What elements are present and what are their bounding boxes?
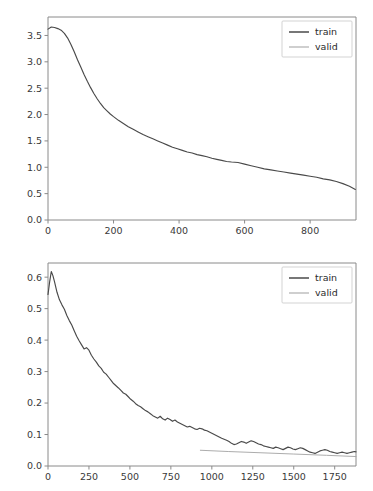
y-tick-label: 0.2 [27,397,42,408]
x-tick-label: 1500 [282,471,306,482]
x-tick-label: 400 [170,225,188,236]
y-tick-label: 0.0 [27,214,42,225]
y-tick-label: 0.5 [27,188,42,199]
y-tick-label: 0.5 [27,303,42,314]
y-tick-label: 2.5 [27,83,42,94]
y-tick-label: 3.0 [27,56,42,67]
x-tick-label: 0 [45,225,51,236]
y-tick-label: 0.0 [27,460,42,471]
loss-curves-figure: 0.00.51.01.52.02.53.03.50200400600800tra… [0,0,373,491]
x-tick-label: 0 [45,471,51,482]
x-tick-label: 1750 [323,471,347,482]
y-tick-label: 0.3 [27,366,42,377]
top-chart-canvas: 0.00.51.01.52.02.53.03.50200400600800tra… [0,0,373,245]
legend-label-train: train [315,26,337,37]
y-tick-label: 0.6 [27,272,42,283]
y-tick-label: 2.0 [27,109,42,120]
legend-label-train: train [315,272,337,283]
y-tick-label: 3.5 [27,30,42,41]
x-tick-label: 750 [162,471,180,482]
legend-label-valid: valid [315,287,338,298]
series-line-valid [200,450,356,456]
x-tick-label: 800 [301,225,319,236]
y-tick-label: 1.5 [27,135,42,146]
x-tick-label: 500 [121,471,139,482]
y-tick-label: 0.1 [27,429,42,440]
subplot-top-loss-chart: 0.00.51.01.52.02.53.03.50200400600800tra… [0,0,373,245]
x-tick-label: 600 [236,225,254,236]
y-tick-label: 0.4 [27,335,42,346]
x-tick-label: 250 [80,471,98,482]
bottom-chart-canvas: 0.00.10.20.30.40.50.60250500750100012501… [0,246,373,491]
subplot-bottom-loss-chart: 0.00.10.20.30.40.50.60250500750100012501… [0,246,373,491]
x-tick-label: 1250 [241,471,265,482]
legend-label-valid: valid [315,41,338,52]
y-tick-label: 1.0 [27,162,42,173]
x-tick-label: 1000 [200,471,224,482]
x-tick-label: 200 [104,225,122,236]
